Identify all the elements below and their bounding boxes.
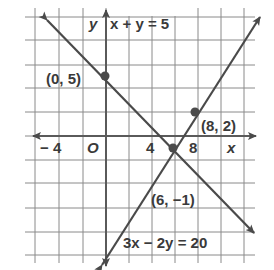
- point-label-8-2: (8, 2): [201, 117, 236, 134]
- y-axis-label: y: [88, 15, 98, 32]
- line-3x-minus-2y-eq-20: [102, 17, 260, 265]
- equation-label-1: x + y = 5: [110, 15, 169, 32]
- point-8-2: [191, 108, 200, 117]
- point-label-6-neg1: (6, −1): [151, 191, 195, 208]
- x-axis-label: x: [226, 139, 236, 156]
- point-0-5: [101, 72, 110, 81]
- equation-label-2: 3x − 2y = 20: [123, 234, 207, 251]
- origin-label: O: [87, 139, 99, 156]
- tick-label-8: 8: [189, 139, 197, 156]
- point-label-0-5: (0, 5): [46, 70, 81, 87]
- point-6-neg1: [169, 144, 178, 153]
- coordinate-plane-chart: y x + y = 5 (0, 5) (8, 2) − 4 O 4 8 x (6…: [0, 0, 274, 270]
- tick-label-4: 4: [146, 139, 155, 156]
- tick-label-neg4: − 4: [40, 139, 62, 156]
